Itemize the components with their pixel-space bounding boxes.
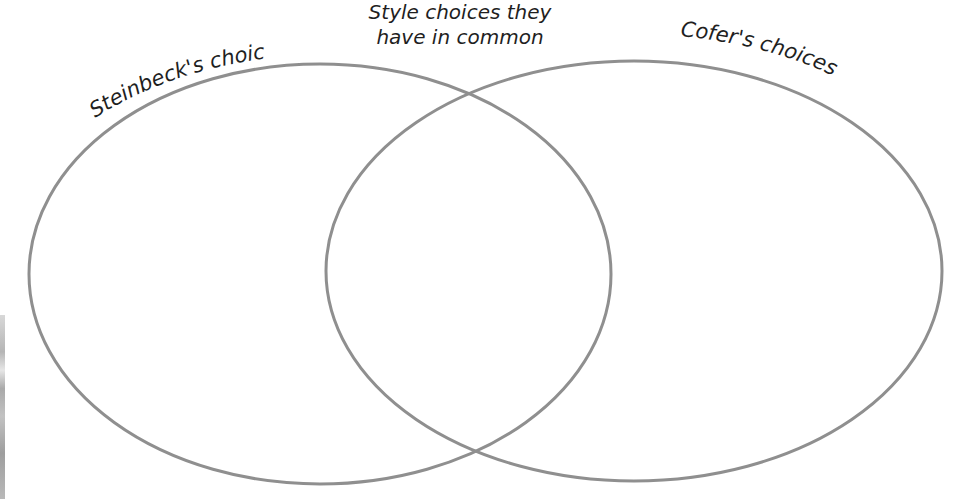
steinbeck-label: Steinbeck's choices xyxy=(0,0,267,122)
cofer-circle[interactable] xyxy=(326,61,942,481)
cofer-label: Cofer's choices xyxy=(680,17,842,80)
intersection-label: Style choices they have in common xyxy=(360,0,560,50)
venn-diagram: Steinbeck's choices Cofer's choices Styl… xyxy=(0,0,956,499)
steinbeck-circle[interactable] xyxy=(29,64,611,484)
venn-canvas: Steinbeck's choices Cofer's choices xyxy=(0,0,956,499)
intersection-label-line2: have in common xyxy=(360,25,560,50)
page-edge-shadow xyxy=(0,315,5,499)
intersection-label-line1: Style choices they xyxy=(360,0,560,25)
